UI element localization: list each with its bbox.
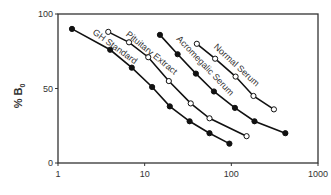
data-point <box>227 141 232 146</box>
data-point <box>207 131 212 136</box>
data-point <box>283 131 288 136</box>
data-point <box>213 56 218 61</box>
series-label: Acromegalic Serum <box>175 34 236 98</box>
data-point <box>271 107 276 112</box>
x-tick-label: 10 <box>140 169 150 179</box>
data-point <box>232 105 237 110</box>
data-point <box>207 116 212 121</box>
series-normal-serum <box>194 41 276 112</box>
data-point <box>193 71 198 76</box>
y-axis-label-main: % B <box>12 88 24 109</box>
data-point <box>166 78 171 83</box>
data-point <box>244 134 249 139</box>
data-point <box>211 89 216 94</box>
x-tick-label: 100 <box>224 169 239 179</box>
chart-svg: 1101001000050100 GH StandardPituitary Ex… <box>0 0 331 195</box>
data-point <box>252 119 257 124</box>
y-axis-label-sub: 0 <box>19 84 26 88</box>
data-point <box>251 93 256 98</box>
data-point <box>233 74 238 79</box>
y-tick-label: 50 <box>43 84 53 94</box>
y-axis-label: % B0 <box>12 84 26 109</box>
data-point <box>194 41 199 46</box>
data-point <box>129 65 134 70</box>
data-point <box>150 84 155 89</box>
chart: 1101001000050100 GH StandardPituitary Ex… <box>0 0 331 195</box>
data-point <box>157 32 162 37</box>
data-point <box>187 119 192 124</box>
data-point <box>188 101 193 106</box>
data-point <box>167 104 172 109</box>
series-labels: GH StandardPituitary ExtractAcromegalic … <box>91 27 262 97</box>
x-tick-label: 1000 <box>308 169 328 179</box>
data-point <box>69 26 74 31</box>
data-point <box>175 52 180 57</box>
y-tick-label: 100 <box>38 9 53 19</box>
y-tick-label: 0 <box>48 158 53 168</box>
x-tick-label: 1 <box>55 169 60 179</box>
